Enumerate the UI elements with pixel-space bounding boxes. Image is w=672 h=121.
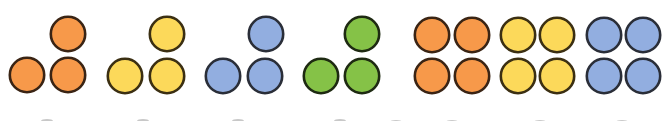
orange-counter (51, 17, 85, 51)
blue-counter (626, 18, 660, 52)
green-counter (345, 59, 379, 93)
cut-off-counter-edge (232, 119, 244, 121)
yellow-counter (540, 59, 574, 93)
yellow-counter (540, 18, 574, 52)
blue-counter (249, 17, 283, 51)
blue-triangle-group (206, 17, 283, 93)
orange-counter (415, 59, 449, 93)
orange-square-group (415, 18, 489, 93)
yellow-counter (150, 17, 184, 51)
counters-diagram (0, 0, 672, 121)
orange-counter (455, 18, 489, 52)
blue-counter (206, 59, 240, 93)
cut-off-counter-edge (334, 119, 346, 121)
yellow-counter (501, 18, 535, 52)
orange-counter (51, 58, 85, 92)
orange-counter (10, 58, 44, 92)
blue-square-group (587, 18, 660, 93)
orange-triangle-group (10, 17, 85, 92)
blue-counter (587, 59, 621, 93)
blue-counter (626, 59, 660, 93)
green-counter (304, 59, 338, 93)
yellow-triangle-group (108, 17, 184, 93)
yellow-counter (108, 59, 142, 93)
cut-off-counter-edge (390, 120, 402, 121)
cut-off-counter-edge (616, 120, 628, 121)
orange-counter (455, 59, 489, 93)
counter-groups (10, 17, 660, 93)
yellow-counter (150, 59, 184, 93)
cut-off-next-row (41, 119, 628, 121)
green-counter (345, 17, 379, 51)
yellow-square-group (501, 18, 574, 93)
yellow-counter (501, 59, 535, 93)
cut-off-counter-edge (137, 119, 149, 121)
blue-counter (248, 59, 282, 93)
cut-off-counter-edge (446, 120, 458, 121)
cut-off-counter-edge (41, 119, 53, 121)
blue-counter (587, 18, 621, 52)
green-triangle-group (304, 17, 379, 93)
orange-counter (415, 18, 449, 52)
cut-off-counter-edge (534, 120, 546, 121)
